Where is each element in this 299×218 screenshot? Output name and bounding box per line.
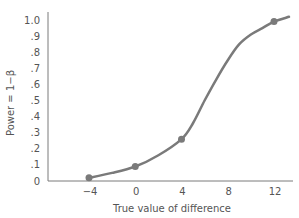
y-tick-label: .9: [30, 31, 40, 42]
y-tick-label: .4: [30, 111, 40, 122]
x-tick-label: 12: [269, 186, 282, 197]
x-axis-ticks: −404812: [83, 186, 282, 197]
y-tick-label: .6: [30, 79, 40, 90]
data-point-marker: [86, 174, 93, 181]
y-tick-label: 0: [34, 176, 40, 187]
power-curve-chart: 0.1.2.3.4.5.6.7.8.91.0 −404812 Power = 1…: [0, 0, 299, 218]
x-tick-label: −4: [83, 186, 98, 197]
y-tick-label: .8: [30, 47, 40, 58]
y-tick-label: .7: [30, 63, 40, 74]
y-tick-label: .5: [30, 95, 40, 106]
y-tick-label: 1.0: [24, 15, 40, 26]
data-point-marker: [271, 18, 278, 25]
y-tick-label: .2: [30, 143, 40, 154]
y-tick-label: .3: [30, 127, 40, 138]
data-point-marker: [132, 163, 139, 170]
y-axis-ticks: 0.1.2.3.4.5.6.7.8.91.0: [24, 15, 40, 187]
y-axis-label: Power = 1−β: [5, 70, 16, 136]
x-tick-label: 8: [226, 186, 232, 197]
data-point-marker: [178, 136, 185, 143]
power-curve-line: [89, 17, 289, 178]
x-tick-label: 4: [179, 186, 185, 197]
x-tick-label: 0: [133, 186, 139, 197]
x-axis-label: True value of difference: [112, 203, 231, 214]
data-points: [86, 18, 278, 181]
y-tick-label: .1: [30, 159, 40, 170]
